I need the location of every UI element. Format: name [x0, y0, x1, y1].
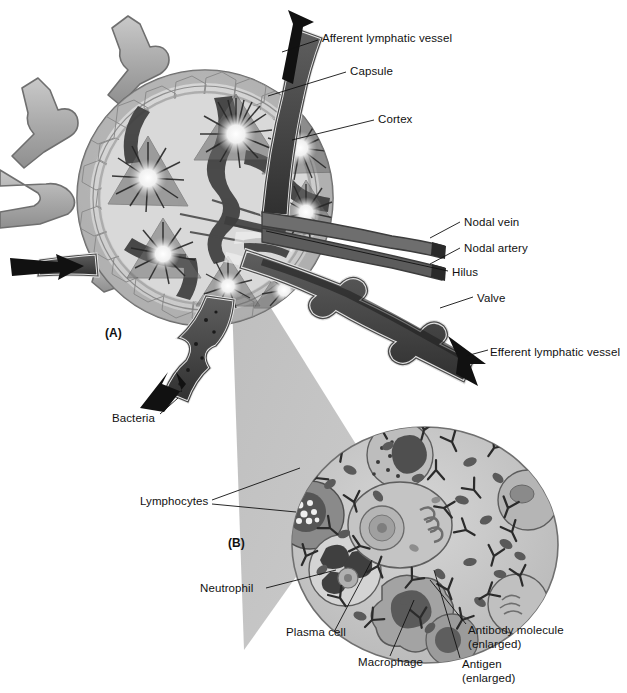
- label-antigen-sub: (enlarged): [462, 672, 515, 685]
- label-hilus: Hilus: [452, 266, 478, 279]
- label-cortex: Cortex: [378, 113, 412, 126]
- label-afferent-lymphatic-vessel: Afferent lymphatic vessel: [322, 32, 452, 45]
- label-capsule: Capsule: [350, 65, 393, 78]
- panel-marker-b: (B): [228, 536, 245, 550]
- label-antigen: Antigen: [462, 658, 502, 671]
- plasma-cell: [348, 482, 452, 568]
- panel-marker-a: (A): [105, 326, 122, 340]
- label-bacteria: Bacteria: [112, 412, 155, 425]
- label-valve: Valve: [477, 292, 505, 305]
- label-lymphocytes: Lymphocytes: [140, 495, 208, 508]
- label-neutrophil: Neutrophil: [200, 582, 253, 595]
- label-nodal-artery: Nodal artery: [464, 242, 528, 255]
- label-antibody-molecule: Antibody molecule: [468, 624, 564, 637]
- label-macrophage: Macrophage: [358, 656, 423, 669]
- label-nodal-vein: Nodal vein: [464, 216, 519, 229]
- label-plasma-cell: Plasma cell: [286, 626, 346, 639]
- label-antibody-molecule-sub: (enlarged): [468, 638, 521, 651]
- label-efferent-lymphatic-vessel: Efferent lymphatic vessel: [490, 346, 620, 359]
